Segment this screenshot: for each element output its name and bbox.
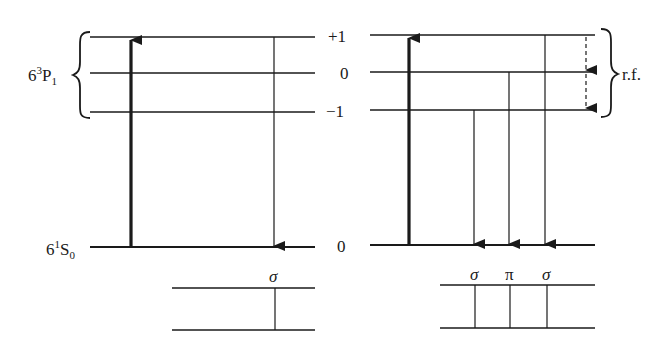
term-n: 6 [46, 240, 55, 259]
energy-level-diagram [0, 0, 671, 354]
m-label-minus-one: −1 [326, 103, 344, 120]
term-n: 6 [28, 66, 37, 85]
left-panel [73, 32, 315, 330]
brace-right-icon [601, 29, 618, 117]
term-j: 0 [69, 249, 75, 261]
sigma-plus-label: σ [542, 266, 550, 283]
m-label-ground-zero: 0 [337, 238, 346, 255]
ground-state-label: 61S0 [46, 239, 75, 261]
pi-label: π [505, 266, 514, 283]
excited-state-label: 63P1 [28, 65, 57, 87]
sigma-minus-label: σ [470, 266, 478, 283]
m-label-plus-one: +1 [328, 28, 346, 45]
sigma-label-left: σ [269, 268, 277, 285]
rf-label: r.f. [622, 66, 641, 83]
brace-left-icon [73, 32, 90, 118]
m-label-zero: 0 [340, 65, 349, 82]
term-j: 1 [51, 75, 57, 87]
right-panel [370, 29, 618, 328]
